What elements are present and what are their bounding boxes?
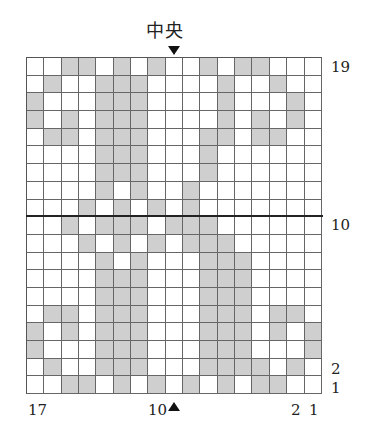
grid-cell: [252, 376, 269, 394]
grid-cell: [79, 253, 96, 271]
grid-cell: [79, 129, 96, 147]
grid-cell: [166, 58, 183, 76]
grid-cell: [131, 217, 148, 235]
grid-cell: [235, 359, 252, 377]
grid-cell: [218, 288, 235, 306]
grid-cell: [166, 270, 183, 288]
grid-cell: [252, 270, 269, 288]
grid-cell: [270, 93, 287, 111]
grid-cell: [305, 164, 322, 182]
grid-cell: [44, 76, 61, 94]
grid-cell: [44, 146, 61, 164]
grid-cell: [235, 306, 252, 324]
grid-cell: [79, 111, 96, 129]
grid-cell: [200, 164, 217, 182]
grid-cell: [79, 93, 96, 111]
grid-cell: [148, 93, 165, 111]
grid-cell: [96, 58, 113, 76]
grid-cell: [183, 93, 200, 111]
grid-cell: [27, 270, 44, 288]
grid-cell: [166, 235, 183, 253]
grid-cell: [218, 217, 235, 235]
grid-cell: [287, 341, 304, 359]
grid-cell: [148, 253, 165, 271]
grid-cell: [166, 182, 183, 200]
grid-cell: [131, 146, 148, 164]
grid-cell: [131, 270, 148, 288]
grid-cell: [235, 253, 252, 271]
grid-cell: [252, 323, 269, 341]
grid-cell: [183, 217, 200, 235]
grid-cell: [27, 76, 44, 94]
grid-cell: [148, 288, 165, 306]
grid-cell: [270, 235, 287, 253]
grid-cell: [62, 129, 79, 147]
grid-cell: [252, 76, 269, 94]
grid-cell: [166, 146, 183, 164]
grid-cell: [166, 341, 183, 359]
grid-cell: [183, 164, 200, 182]
grid-cell: [252, 93, 269, 111]
grid-cell: [44, 376, 61, 394]
grid-cell: [305, 93, 322, 111]
grid-cell: [287, 111, 304, 129]
grid-cell: [79, 182, 96, 200]
grid-cell: [305, 359, 322, 377]
grid-cell: [218, 376, 235, 394]
grid-cell: [218, 270, 235, 288]
grid-cell: [183, 58, 200, 76]
grid-cell: [183, 323, 200, 341]
grid-cell: [44, 270, 61, 288]
grid-cell: [200, 376, 217, 394]
grid-cell: [287, 76, 304, 94]
grid-cell: [96, 270, 113, 288]
grid-cell: [114, 129, 131, 147]
grid-cell: [270, 288, 287, 306]
grid-cell: [44, 341, 61, 359]
grid-cell: [79, 76, 96, 94]
grid-cell: [114, 146, 131, 164]
grid-cell: [131, 341, 148, 359]
grid-cell: [27, 323, 44, 341]
grid-cell: [27, 306, 44, 324]
grid-cell: [96, 164, 113, 182]
grid-cell: [114, 58, 131, 76]
grid-cell: [27, 146, 44, 164]
grid-cell: [131, 253, 148, 271]
row-label-2: 2: [331, 360, 341, 378]
grid-cell: [235, 76, 252, 94]
grid-cell: [200, 359, 217, 377]
grid-cell: [27, 235, 44, 253]
grid-cell: [200, 111, 217, 129]
grid-cell: [305, 270, 322, 288]
grid-cell: [183, 235, 200, 253]
grid-cell: [27, 93, 44, 111]
grid-cell: [62, 146, 79, 164]
grid-cell: [200, 341, 217, 359]
grid-cell: [79, 270, 96, 288]
grid-cell: [218, 93, 235, 111]
grid-cell: [44, 306, 61, 324]
grid-cell: [235, 93, 252, 111]
grid-cell: [79, 359, 96, 377]
grid-cell: [166, 111, 183, 129]
grid-cell: [305, 288, 322, 306]
grid-cell: [44, 235, 61, 253]
grid-cell: [148, 182, 165, 200]
grid-cell: [114, 182, 131, 200]
grid-cell: [96, 359, 113, 377]
grid-cell: [62, 270, 79, 288]
grid-cell: [305, 217, 322, 235]
grid-cell: [62, 58, 79, 76]
grid-cell: [235, 270, 252, 288]
grid-cell: [287, 323, 304, 341]
grid-cell: [235, 111, 252, 129]
grid-cell: [27, 253, 44, 271]
grid-cell: [252, 217, 269, 235]
grid-cell: [148, 359, 165, 377]
grid-cell: [305, 129, 322, 147]
grid-cell: [27, 129, 44, 147]
grid-cell: [131, 164, 148, 182]
grid-cell: [148, 306, 165, 324]
grid-cell: [252, 164, 269, 182]
